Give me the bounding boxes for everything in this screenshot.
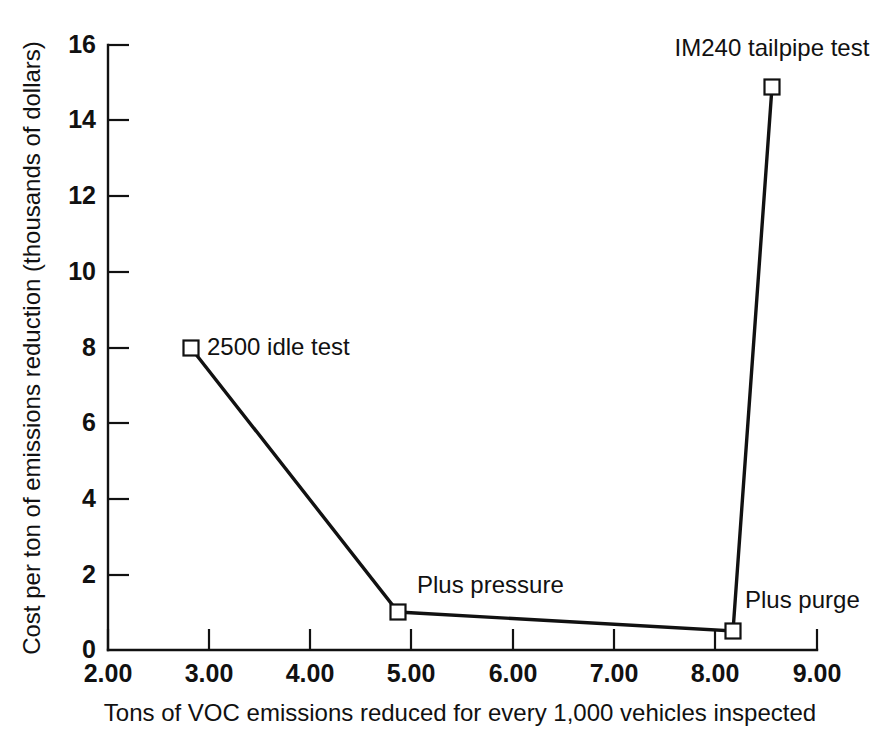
- data-point-marker-1[interactable]: [184, 341, 199, 356]
- y-tick-label-16: 16: [68, 30, 96, 58]
- y-tick-label-6: 6: [82, 408, 96, 436]
- chart-figure: 16 14 12 10 8 6 4 2 0 Cost per ton of em…: [0, 0, 894, 739]
- y-tick-label-10: 10: [68, 257, 96, 285]
- data-point-marker-2[interactable]: [391, 605, 406, 620]
- x-tick-label-3: 3.00: [185, 659, 234, 687]
- y-tick-label-4: 4: [82, 484, 96, 512]
- line-chart: 16 14 12 10 8 6 4 2 0 Cost per ton of em…: [0, 0, 894, 739]
- y-tick-label-2: 2: [82, 560, 96, 588]
- x-tick-label-6: 6.00: [489, 659, 538, 687]
- x-tick-label-7: 7.00: [590, 659, 639, 687]
- x-tick-label-5: 5.00: [387, 659, 436, 687]
- point-label-plus-pressure: Plus pressure: [417, 571, 564, 598]
- chart-background: [0, 0, 894, 739]
- point-label-2500-idle-test: 2500 idle test: [207, 333, 350, 360]
- data-point-marker-3[interactable]: [726, 624, 741, 639]
- y-axis-title: Cost per ton of emissions reduction (tho…: [18, 41, 45, 655]
- y-tick-label-0: 0: [82, 635, 96, 663]
- x-tick-label-2: 2.00: [84, 659, 133, 687]
- point-label-im240-tailpipe-test: IM240 tailpipe test: [675, 34, 870, 61]
- y-tick-label-8: 8: [82, 333, 96, 361]
- y-tick-label-12: 12: [68, 181, 96, 209]
- point-label-plus-purge: Plus purge: [745, 586, 860, 613]
- x-tick-label-8: 8.00: [691, 659, 740, 687]
- data-point-marker-4[interactable]: [765, 80, 780, 95]
- x-axis-title: Tons of VOC emissions reduced for every …: [104, 699, 816, 726]
- x-tick-label-9: 9.00: [793, 659, 842, 687]
- x-tick-label-4: 4.00: [286, 659, 335, 687]
- y-tick-label-14: 14: [68, 105, 96, 133]
